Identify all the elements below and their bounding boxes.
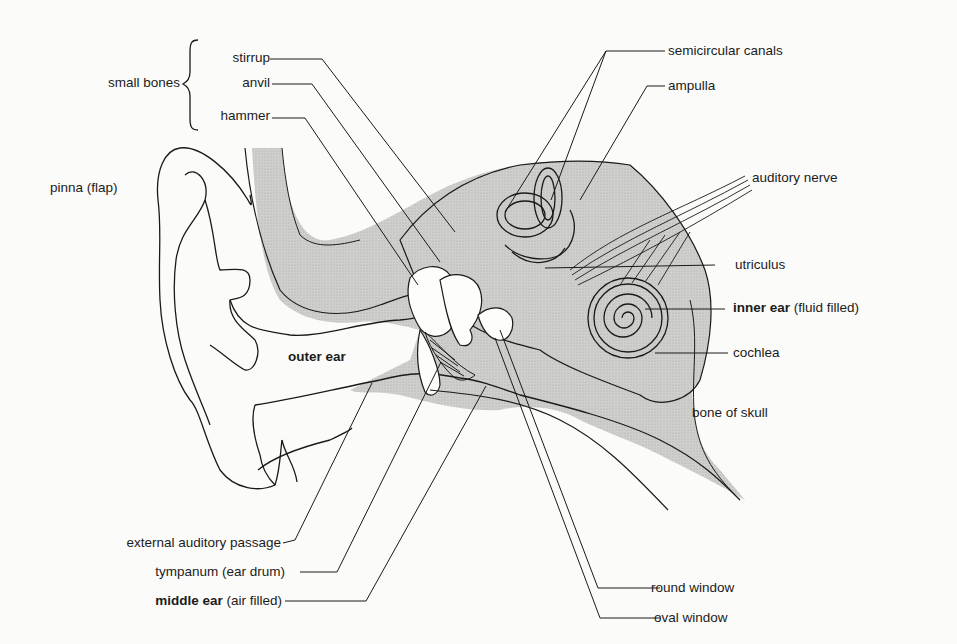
label-hammer: hammer — [196, 108, 270, 124]
label-round-window: round window — [651, 580, 734, 596]
label-bone-of-skull: bone of skull — [692, 405, 768, 421]
label-pinna: pinna (flap) — [50, 180, 118, 196]
label-anvil: anvil — [200, 75, 270, 91]
label-auditory-nerve: auditory nerve — [752, 170, 838, 186]
label-tympanum: tympanum (ear drum) — [60, 564, 285, 580]
label-oval-window: oval window — [654, 610, 728, 626]
label-stirrup: stirrup — [200, 50, 270, 66]
label-small-bones: small bones — [76, 75, 180, 91]
label-ampulla: ampulla — [668, 78, 715, 94]
label-external-auditory-passage: external auditory passage — [40, 535, 281, 551]
label-utriculus: utriculus — [735, 257, 785, 273]
label-cochlea: cochlea — [733, 345, 780, 361]
label-inner-ear: inner ear (fluid filled) — [733, 300, 859, 316]
label-semicircular-canals: semicircular canals — [668, 43, 783, 59]
label-outer-ear: outer ear — [288, 349, 346, 365]
label-middle-ear: middle ear (air filled) — [60, 593, 282, 609]
